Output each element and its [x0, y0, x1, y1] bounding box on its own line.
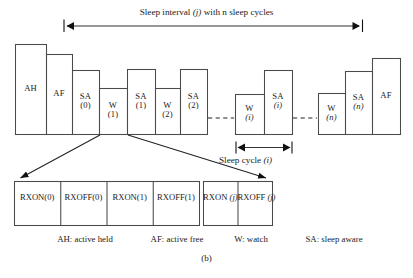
- timeline-label-index: (n): [318, 113, 345, 122]
- timeline-label-sa2: SA(2): [180, 92, 207, 110]
- rx-cell-rx-off-0: RXOFF(0): [60, 193, 106, 202]
- rx-cell-line2: ON(1): [124, 192, 146, 202]
- rx-cell-line1: RX: [112, 192, 124, 202]
- timeline-label-index: (n): [345, 102, 372, 111]
- rx-cell-line1: RX: [238, 192, 250, 202]
- timeline-label-wi: W(i): [235, 104, 264, 122]
- rx-cell-line2: ON (j): [215, 192, 238, 202]
- sleep-cycle-arrow: [236, 142, 292, 154]
- legend-row: AH: active held AF: active free W: watch…: [40, 235, 385, 249]
- timeline-label-sa1: SA(1): [127, 92, 155, 110]
- timeline-label-sa0: SA(0): [72, 92, 99, 110]
- sleep-cycle-text-before: Sleep cycle: [219, 155, 263, 165]
- rx-cell-rx-on-j: RXON (j): [203, 193, 238, 202]
- sleep-cycle-variable: (i): [263, 155, 272, 165]
- rx-cell-line2: OFF (j): [249, 192, 275, 202]
- timeline-label-san: SA(n): [345, 93, 372, 111]
- legend-ah: AH: active held: [40, 235, 130, 244]
- rx-cell-line1: RX: [20, 192, 32, 202]
- timeline-label-w2: W(2): [155, 101, 180, 119]
- timeline-label-main: W: [327, 103, 335, 113]
- timeline-label-index: (1): [127, 101, 155, 110]
- sleep-interval-arrow: [64, 20, 363, 33]
- legend-af: AF: active free: [132, 235, 222, 244]
- timeline-label-af2: AF: [372, 91, 400, 100]
- timeline-label-wn: W(n): [318, 104, 345, 122]
- timeline-label-sai: SA(i): [264, 92, 292, 110]
- rx-cell-rx-off-1: RXOFF(1): [153, 193, 199, 202]
- rx-cell-rx-off-j: RXOFF (j): [238, 193, 273, 202]
- rx-cell-variable: (j): [230, 192, 238, 202]
- sleep-interval-text-before: Sleep interval: [140, 7, 193, 17]
- legend-sa: SA: sleep aware: [283, 235, 385, 244]
- rx-cell-line2: OFF(1): [169, 192, 195, 202]
- timeline-label-index: (i): [264, 101, 292, 110]
- rx-cell-line1: RX: [157, 192, 169, 202]
- figure-caption: (b): [0, 254, 413, 263]
- sleep-interval-label: Sleep interval (j) with n sleep cycles: [0, 8, 413, 18]
- rx-cell-rx-on-1: RXON(1): [107, 193, 153, 202]
- timeline-label-main: SA: [135, 91, 146, 101]
- rx-cell-variable: (j): [267, 192, 275, 202]
- rx-cell-line1: RX: [203, 192, 215, 202]
- timeline-label-index: (0): [72, 101, 99, 110]
- figure-root: AHAFSA(0)W(1)SA(1)W(2)SA(2)W(i)SA(i)W(n)…: [0, 0, 413, 278]
- timeline-label-main: SA: [188, 91, 199, 101]
- timeline-label-index: (1): [99, 110, 127, 119]
- timeline-label-index: (2): [180, 101, 207, 110]
- timeline-label-ah: AH: [15, 84, 46, 93]
- rx-groups-vector: [15, 182, 273, 226]
- rx-cell-line2: ON(0): [32, 192, 54, 202]
- sleep-cycle-label: Sleep cycle (i): [219, 156, 369, 166]
- rx-cell-rx-on-0: RXON(0): [14, 193, 60, 202]
- timeline-label-af1: AF: [46, 89, 72, 98]
- sleep-interval-text-after: with n sleep cycles: [201, 7, 273, 17]
- legend-w: W: watch: [220, 235, 282, 244]
- timeline-label-main: SA: [353, 92, 364, 102]
- timeline-label-main: AF: [380, 90, 391, 100]
- timeline-label-index: (i): [235, 113, 264, 122]
- timeline-label-index: (2): [155, 110, 180, 119]
- rx-cell-line2: OFF(0): [76, 192, 102, 202]
- rx-cell-line1: RX: [65, 192, 77, 202]
- timeline-label-w1: W(1): [99, 101, 127, 119]
- timeline-label-main: AH: [24, 83, 37, 93]
- timeline-label-main: AF: [53, 88, 64, 98]
